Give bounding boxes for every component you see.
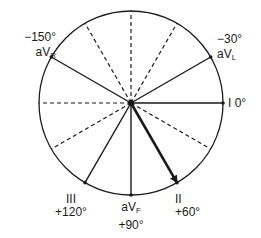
- label-lead-aVF: aVF +90°: [111, 201, 151, 231]
- dashed-axis--120: [85, 23, 131, 103]
- lead-endpoint-aVL: [209, 55, 213, 59]
- lead-I-degrees: 0°: [235, 96, 246, 110]
- dashed-axes: [39, 11, 211, 149]
- lead-axis-III: [85, 103, 131, 183]
- label-lead-aVR: −150° aVR: [14, 31, 56, 62]
- lead-axis-aVR: [51, 57, 131, 103]
- aVF-degrees: +90°: [111, 219, 151, 231]
- label-lead-III: III +120°: [50, 193, 92, 218]
- aVR-lead-name: aVR: [14, 46, 56, 62]
- label-lead-I: I 0°: [228, 97, 246, 109]
- lead-I-name: I: [228, 96, 231, 110]
- lead-III-degrees: +120°: [50, 206, 92, 218]
- center-point: [128, 100, 134, 106]
- aVL-degrees: −30°: [217, 33, 242, 45]
- lead-endpoint-II: [175, 181, 179, 185]
- lead-II-name: II: [175, 193, 200, 205]
- aVR-degrees: −150°: [14, 31, 56, 43]
- lead-endpoint-I: [221, 101, 225, 105]
- lead-endpoint-III: [83, 181, 87, 185]
- label-lead-aVL: −30° aVL: [217, 33, 242, 64]
- dashed-axis--60: [131, 23, 177, 103]
- aVL-lead-name: aVL: [217, 48, 242, 64]
- lead-III-name: III: [50, 193, 92, 205]
- solid-axes: [50, 55, 225, 197]
- dashed-axis-150: [51, 103, 131, 149]
- lead-endpoint-aVF: [129, 193, 133, 197]
- aVF-lead-name: aVF: [111, 201, 151, 217]
- lead-axis-aVL: [131, 57, 211, 103]
- lead-axis-II: [131, 103, 177, 182]
- lead-II-degrees: +60°: [175, 206, 200, 218]
- label-lead-II: II +60°: [175, 193, 200, 218]
